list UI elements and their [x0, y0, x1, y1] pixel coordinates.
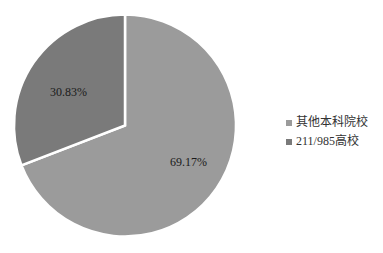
legend-swatch-icon	[286, 139, 292, 145]
chart-legend: 其他本科院校 211/985高校	[286, 113, 368, 151]
legend-label: 其他本科院校	[296, 113, 368, 132]
slice-label-other-colleges: 69.17%	[170, 155, 207, 169]
legend-item-211-985: 211/985高校	[286, 132, 368, 151]
slice-label-211-985: 30.83%	[50, 85, 87, 99]
legend-swatch-icon	[286, 120, 292, 126]
legend-label: 211/985高校	[296, 132, 359, 151]
legend-item-other-colleges: 其他本科院校	[286, 113, 368, 132]
